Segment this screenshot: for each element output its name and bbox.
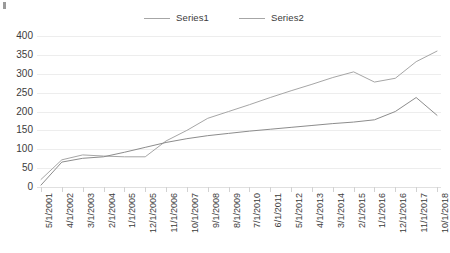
x-tick [166, 187, 167, 192]
series-line-series1 [41, 51, 437, 179]
x-tick-label: 3/1/2003 [87, 193, 96, 228]
x-tick [374, 187, 375, 192]
x-axis-ticks [37, 187, 441, 192]
legend-line-icon-series2 [239, 18, 265, 19]
series-line-series2 [41, 98, 437, 186]
x-tick [354, 187, 355, 192]
x-tick-label: 5/1/2001 [45, 193, 54, 228]
x-tick-label: 8/1/2009 [233, 193, 242, 228]
legend-line-icon-series1 [144, 18, 170, 19]
legend-label-series1: Series1 [176, 13, 209, 23]
y-tick-label-150: 150 [16, 125, 33, 135]
x-tick-label: 1/1/2016 [378, 193, 387, 228]
y-tick-label-0: 0 [27, 182, 33, 192]
legend-label-series2: Series2 [271, 13, 304, 23]
x-tick [229, 187, 230, 192]
x-tick [395, 187, 396, 192]
chart-legend: Series1 Series2 [0, 10, 448, 26]
x-tick-label: 3/1/2014 [337, 193, 346, 228]
x-tick [312, 187, 313, 192]
y-tick-label-250: 250 [16, 88, 33, 98]
y-tick-label-100: 100 [16, 144, 33, 154]
x-tick [416, 187, 417, 192]
x-tick-label: 4/1/2013 [316, 193, 325, 228]
x-tick-label: 9/1/2008 [212, 193, 221, 228]
y-tick-label-350: 350 [16, 50, 33, 60]
y-tick-label-50: 50 [22, 163, 33, 173]
x-tick-label: 6/1/2011 [274, 193, 283, 227]
x-tick-label: 10/1/2007 [191, 193, 200, 233]
x-tick-label: 2/1/2004 [108, 193, 117, 228]
plot-area [37, 36, 441, 187]
x-tick-label: 5/1/2012 [295, 193, 304, 228]
x-tick-label: 4/1/2002 [66, 193, 75, 228]
y-axis-labels: 050100150200250300350400 [0, 36, 33, 187]
x-tick [145, 187, 146, 192]
x-tick-label: 11/1/2006 [170, 193, 179, 232]
corner-artifact [3, 2, 6, 9]
legend-item-series2[interactable]: Series2 [239, 13, 304, 23]
x-tick [187, 187, 188, 192]
series-lines [37, 36, 441, 187]
x-tick [291, 187, 292, 192]
x-tick-label: 2/1/2015 [358, 193, 367, 228]
y-tick-label-200: 200 [16, 107, 33, 117]
x-tick-label: 7/1/2010 [253, 193, 262, 228]
x-tick [41, 187, 42, 192]
x-tick-label: 12/1/2005 [149, 193, 158, 233]
x-tick [83, 187, 84, 192]
x-tick [104, 187, 105, 192]
legend-item-series1[interactable]: Series1 [144, 13, 209, 23]
y-tick-label-300: 300 [16, 69, 33, 79]
x-tick [124, 187, 125, 192]
x-tick-label: 11/1/2017 [420, 193, 429, 232]
x-tick [208, 187, 209, 192]
x-tick-label: 1/1/2005 [128, 193, 137, 228]
x-tick [62, 187, 63, 192]
x-tick [333, 187, 334, 192]
x-tick [249, 187, 250, 192]
x-axis-labels: 5/1/20014/1/20023/1/20032/1/20041/1/2005… [37, 193, 441, 251]
x-tick-label: 12/1/2016 [399, 193, 408, 233]
x-tick [437, 187, 438, 192]
x-tick [270, 187, 271, 192]
x-tick-label: 10/1/2018 [441, 193, 450, 233]
y-tick-label-400: 400 [16, 31, 33, 41]
